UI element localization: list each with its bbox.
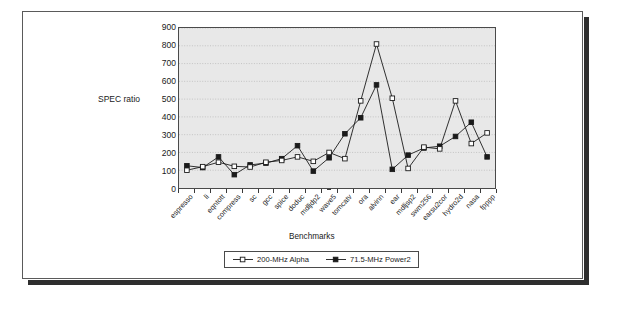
- y-tick-label: 500: [162, 95, 176, 104]
- data-point-power2: [453, 134, 458, 139]
- data-point-alpha: [295, 155, 300, 160]
- data-point-power2: [485, 155, 490, 160]
- data-point-power2: [390, 167, 395, 172]
- plot-svg: [179, 28, 495, 188]
- y-tick-label: 200: [162, 149, 176, 158]
- figure-root: SPEC ratio 9008007006005004003002001000 …: [0, 0, 623, 309]
- legend-label: 71.5-MHz Power2: [350, 255, 411, 264]
- legend-open-square-icon: [232, 255, 254, 264]
- data-point-alpha: [343, 156, 348, 161]
- data-point-alpha: [200, 164, 205, 169]
- legend-entry: 71.5-MHz Power2: [325, 255, 411, 264]
- data-point-power2: [311, 169, 316, 174]
- chart-legend: 200-MHz Alpha71.5-MHz Power2: [224, 251, 419, 268]
- legend-filled-square-icon: [325, 255, 347, 264]
- data-point-alpha: [406, 166, 411, 171]
- y-tick-label: 700: [162, 59, 176, 68]
- data-point-alpha: [358, 99, 363, 104]
- data-point-alpha: [469, 141, 474, 146]
- data-point-power2: [358, 116, 363, 121]
- data-point-alpha: [248, 165, 253, 170]
- x-axis-tick-labels: espressolieqntottcompressscgccspicedoduc…: [178, 193, 508, 239]
- frame-drop-shadow-bottom: [28, 280, 589, 285]
- legend-entry: 200-MHz Alpha: [232, 255, 309, 264]
- data-point-alpha: [453, 99, 458, 104]
- series-line-power2: [187, 85, 487, 175]
- data-point-power2: [374, 83, 379, 88]
- y-tick-label: 0: [171, 185, 176, 194]
- y-tick-label: 900: [162, 23, 176, 32]
- data-point-power2: [216, 155, 221, 160]
- data-point-power2: [327, 156, 332, 161]
- data-point-alpha: [437, 147, 442, 152]
- y-axis-tick-labels: 9008007006005004003002001000: [150, 22, 176, 194]
- data-point-alpha: [311, 159, 316, 164]
- data-point-alpha: [232, 164, 237, 169]
- data-point-power2: [295, 143, 300, 148]
- data-point-alpha: [279, 158, 284, 163]
- data-point-alpha: [422, 145, 427, 150]
- data-point-power2: [343, 132, 348, 137]
- y-tick-label: 800: [162, 41, 176, 50]
- data-point-alpha: [185, 168, 190, 173]
- y-tick-label: 600: [162, 77, 176, 86]
- data-point-power2: [406, 153, 411, 158]
- y-axis-title: SPEC ratio: [98, 94, 140, 104]
- data-point-alpha: [264, 160, 269, 165]
- data-point-alpha: [374, 42, 379, 47]
- x-axis-title: Benchmarks: [289, 232, 335, 241]
- legend-label: 200-MHz Alpha: [257, 255, 309, 264]
- data-point-power2: [469, 120, 474, 125]
- y-tick-label: 300: [162, 131, 176, 140]
- data-point-alpha: [390, 96, 395, 101]
- data-point-power2: [185, 164, 190, 169]
- data-point-alpha: [327, 150, 332, 155]
- y-tick-label: 400: [162, 113, 176, 122]
- data-point-alpha: [485, 131, 490, 136]
- y-tick-label: 100: [162, 167, 176, 176]
- frame-drop-shadow-right: [584, 17, 589, 285]
- data-point-power2: [232, 172, 237, 177]
- data-point-alpha: [216, 160, 221, 165]
- plot-area: [178, 27, 496, 189]
